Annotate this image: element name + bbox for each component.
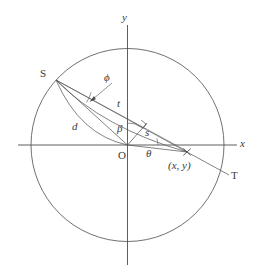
x-axis-label: x [240,138,245,149]
origin-label-O: O [118,150,126,161]
chord-s-to-tangent [56,80,186,151]
tangent-ray-T [187,152,229,175]
phi-leader-line [93,83,113,100]
segment-label-d: d [72,121,78,132]
y-axis-label: y [122,12,127,23]
angle-label-phi: ϕ [104,72,110,83]
diagram-canvas: y x S O T (x, y) ϕ t d β s θ [0,0,257,275]
angle-label-beta: β [117,123,122,134]
field-point-label-xy: (x, y) [168,160,191,171]
segment-label-t: t [117,98,120,109]
geometry-figure [0,0,257,275]
angle-arc-theta [157,138,158,145]
source-point-label-S: S [40,68,46,79]
tangent-point-label-T: T [231,170,238,181]
angle-label-theta: θ [146,148,151,159]
segment-label-s: s [145,127,149,138]
